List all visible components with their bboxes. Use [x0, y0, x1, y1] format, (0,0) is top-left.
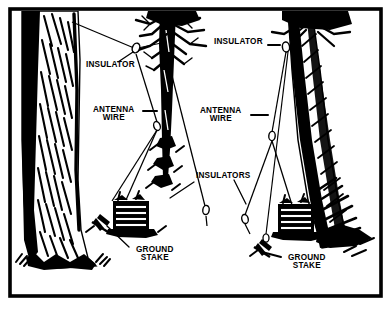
figure-canvas: INSULATOR INSULATOR ANTENNA WIRE ANTENNA… [0, 0, 390, 310]
antenna-installation-illustration [0, 0, 390, 310]
label-insulator-left: INSULATOR [86, 61, 135, 69]
label-ground-stake-left: GROUND STAKE [136, 246, 174, 263]
right-apex-insulator [282, 42, 291, 53]
label-antenna-wire-right: ANTENNA WIRE [200, 107, 241, 124]
label-ground-stake-right: GROUND STAKE [288, 254, 326, 271]
label-antenna-wire-left: ANTENNA WIRE [93, 106, 134, 123]
right-egg-insulator [268, 131, 275, 141]
lower-mid-insulator [202, 205, 210, 215]
label-insulator-right: INSULATOR [214, 38, 263, 46]
label-insulators-center: INSULATORS [196, 172, 250, 180]
